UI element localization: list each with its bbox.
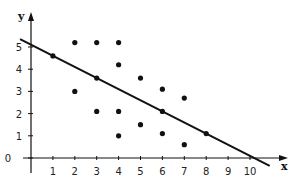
- x-tick-label: 6: [159, 166, 165, 177]
- y-tick-label: 1: [16, 131, 22, 142]
- y-tick-label: 2: [16, 109, 22, 120]
- data-point: [116, 62, 121, 67]
- x-tick-label: 3: [94, 166, 100, 177]
- y-axis-arrow-icon: [28, 12, 34, 21]
- data-point: [160, 87, 165, 92]
- data-point: [204, 131, 209, 136]
- data-point: [72, 40, 77, 45]
- data-point: [138, 122, 143, 127]
- x-tick-label: 7: [181, 166, 187, 177]
- data-point: [138, 75, 143, 80]
- y-tick-label: 3: [16, 86, 22, 97]
- data-point: [160, 131, 165, 136]
- axes: [23, 12, 288, 173]
- x-tick-label: 9: [225, 166, 231, 177]
- data-point: [116, 109, 121, 114]
- data-point: [182, 95, 187, 100]
- scatter-chart: 12345678910012345 x y: [0, 0, 303, 189]
- data-point: [182, 142, 187, 147]
- x-tick-label: 2: [72, 166, 78, 177]
- fit-line: [20, 39, 270, 166]
- x-tick-label: 10: [244, 166, 257, 177]
- y-tick-label: 5: [16, 42, 22, 53]
- data-point: [116, 133, 121, 138]
- ticks: 12345678910012345: [5, 42, 257, 177]
- data-point: [72, 89, 77, 94]
- data-point: [94, 40, 99, 45]
- data-point: [116, 40, 121, 45]
- data-point: [94, 75, 99, 80]
- x-tick-label: 1: [50, 166, 56, 177]
- data-point: [94, 109, 99, 114]
- y-tick-label: 4: [16, 64, 22, 75]
- data-point: [50, 53, 55, 58]
- y-tick-label: 0: [5, 153, 11, 164]
- x-tick-label: 4: [115, 166, 121, 177]
- regression-line: [20, 39, 270, 166]
- x-tick-label: 5: [137, 166, 143, 177]
- data-point: [160, 109, 165, 114]
- y-axis-label: y: [17, 10, 25, 23]
- x-axis-label: x: [281, 160, 288, 173]
- x-tick-label: 8: [203, 166, 209, 177]
